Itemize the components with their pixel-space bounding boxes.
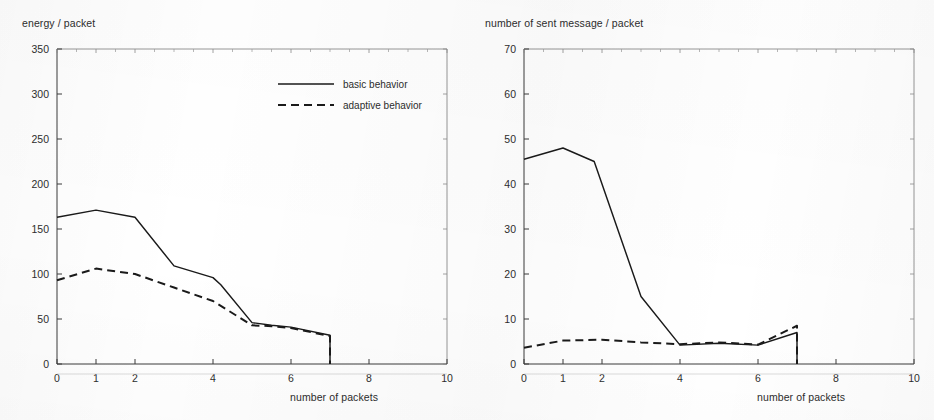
series-line-adaptive xyxy=(57,269,330,364)
y-tick-label: 0 xyxy=(43,358,49,370)
y-tick-label: 300 xyxy=(31,88,49,100)
series-line-basic xyxy=(57,210,330,364)
chart-energy-per-packet: energy / packet number of packets 050100… xyxy=(0,0,467,420)
series-line-basic xyxy=(524,148,797,364)
y-tick-label: 50 xyxy=(504,133,516,145)
chart-messages-per-packet: number of sent message / packet number o… xyxy=(467,0,934,420)
y-tick-label: 20 xyxy=(504,268,516,280)
y-tick-label: 50 xyxy=(37,313,49,325)
y-tick-label: 30 xyxy=(504,223,516,235)
y-tick-label: 150 xyxy=(31,223,49,235)
y-tick-label: 0 xyxy=(510,358,516,370)
legend-label-basic: basic behavior xyxy=(343,79,408,90)
y-tick-label: 200 xyxy=(31,178,49,190)
plot-area-messages: 01020304050607001246810 xyxy=(467,0,934,420)
y-tick-label: 350 xyxy=(31,43,49,55)
legend-label-adaptive: adaptive behavior xyxy=(343,100,423,111)
y-tick-label: 100 xyxy=(31,268,49,280)
y-tick-label: 250 xyxy=(31,133,49,145)
y-tick-label: 10 xyxy=(504,313,516,325)
y-tick-label: 70 xyxy=(504,43,516,55)
y-tick-label: 60 xyxy=(504,88,516,100)
y-tick-label: 40 xyxy=(504,178,516,190)
plot-area-energy: 05010015020025030035001246810basic behav… xyxy=(0,0,467,420)
